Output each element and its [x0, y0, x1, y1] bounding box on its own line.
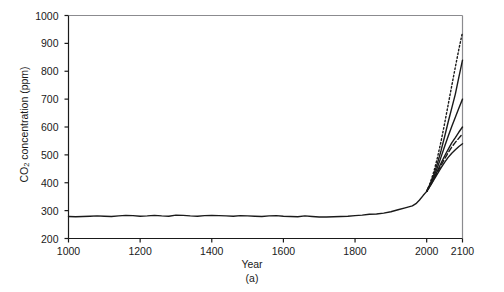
- figure-panel: 2003004005006007008009001000100012001400…: [0, 0, 504, 292]
- x-axis-label: Year: [0, 258, 504, 270]
- x-tick-label: 1400: [190, 246, 234, 256]
- x-tick-label: 1200: [118, 246, 162, 256]
- x-tick-label: 1600: [261, 246, 305, 256]
- y-tick-label: 200: [25, 234, 59, 244]
- y-tick-label: 1000: [25, 11, 59, 21]
- chart-series: [69, 32, 463, 217]
- x-tick-label: 2100: [441, 246, 485, 256]
- series-line: [69, 191, 427, 217]
- series-line: [427, 144, 463, 192]
- figure-caption: (a): [0, 272, 504, 284]
- x-tick-label: 1000: [47, 246, 91, 256]
- y-tick-label: 900: [25, 38, 59, 48]
- y-tick-label: 300: [25, 206, 59, 216]
- x-tick-label: 1800: [333, 246, 377, 256]
- y-axis-label: CO2 concentration (ppm): [18, 55, 31, 195]
